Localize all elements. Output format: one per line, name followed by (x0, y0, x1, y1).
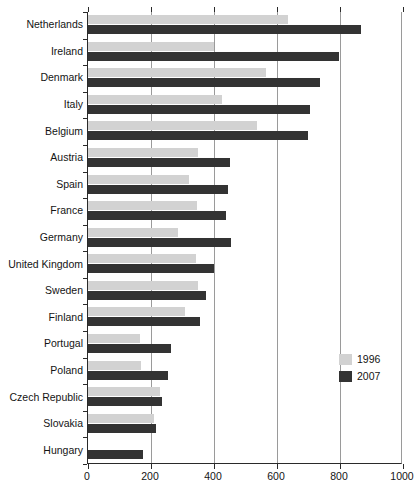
y-axis-category-label: Netherlands (0, 19, 83, 30)
bar-row (88, 12, 401, 39)
x-tick-800 (340, 464, 341, 469)
x-axis-tick-label: 0 (84, 470, 90, 482)
bar-row (88, 304, 401, 331)
y-axis-category-label: Ireland (0, 46, 83, 57)
bar-row (88, 437, 401, 464)
x-tick-200 (151, 7, 152, 12)
bar-1996 (88, 228, 178, 237)
bar-2007 (88, 25, 361, 34)
legend-label: 1996 (357, 352, 380, 366)
x-axis-tick-label: 800 (330, 470, 348, 482)
x-tick-400 (214, 464, 215, 469)
x-axis-labels: 02004006008001000 (0, 470, 415, 486)
legend-item: 2007 (339, 369, 399, 386)
bar-1996 (88, 15, 288, 24)
bar-2007 (88, 371, 168, 380)
bar-1996 (88, 361, 141, 370)
bar-2007 (88, 397, 162, 406)
bar-1996 (88, 387, 160, 396)
bar-chart: NetherlandsIrelandDenmarkItalyBelgiumAus… (0, 0, 415, 501)
y-axis-category-label: Denmark (0, 72, 83, 83)
legend-item: 1996 (339, 352, 399, 369)
bar-row (88, 145, 401, 172)
bar-rows (88, 12, 401, 463)
bar-row (88, 172, 401, 199)
bar-2007 (88, 317, 200, 326)
bar-row (88, 118, 401, 145)
y-axis-category-label: Hungary (0, 445, 83, 456)
bar-row (88, 92, 401, 119)
bar-1996 (88, 148, 198, 157)
bar-1996 (88, 42, 214, 51)
x-tick-600 (277, 464, 278, 469)
legend-swatch-2007 (339, 371, 352, 382)
bar-1996 (88, 334, 140, 343)
y-axis-category-label: Czech Republic (0, 392, 83, 403)
y-axis-category-label: Italy (0, 99, 83, 110)
y-axis-category-label: Slovakia (0, 418, 83, 429)
bar-row (88, 225, 401, 252)
y-axis-category-label: Portugal (0, 338, 83, 349)
bar-1996 (88, 281, 198, 290)
x-axis-tick-label: 600 (267, 470, 285, 482)
legend-swatch-1996 (339, 354, 352, 365)
bar-1996 (88, 121, 257, 130)
bar-1996 (88, 254, 196, 263)
bar-row (88, 251, 401, 278)
y-axis-labels: NetherlandsIrelandDenmarkItalyBelgiumAus… (0, 12, 83, 464)
x-axis-tick-label: 1000 (390, 470, 413, 482)
bar-2007 (88, 105, 310, 114)
bar-1996 (88, 201, 197, 210)
x-axis-tick-label: 200 (141, 470, 159, 482)
bar-2007 (88, 78, 320, 87)
bar-1996 (88, 307, 185, 316)
bar-row (88, 411, 401, 438)
cut-off-caption-fragment (0, 0, 415, 7)
x-tick-0 (88, 464, 89, 469)
bar-row (88, 384, 401, 411)
y-axis-category-label: United Kingdom (0, 259, 83, 270)
bar-1996 (88, 95, 222, 104)
bar-1996 (88, 175, 189, 184)
bar-2007 (88, 211, 226, 220)
y-axis-category-label: Sweden (0, 285, 83, 296)
chart-legend: 19962007 (339, 352, 399, 386)
x-tick-1000 (403, 464, 404, 469)
x-tick-0 (88, 7, 89, 12)
bar-1996 (88, 414, 154, 423)
y-axis-category-label: Belgium (0, 126, 83, 137)
x-tick-200 (151, 464, 152, 469)
bar-2007 (88, 185, 228, 194)
y-axis-category-label: Austria (0, 152, 83, 163)
bar-1996 (88, 68, 266, 77)
y-axis-category-label: Spain (0, 179, 83, 190)
bar-2007 (88, 238, 231, 247)
y-axis-category-label: Poland (0, 365, 83, 376)
bar-2007 (88, 264, 214, 273)
x-tick-400 (214, 7, 215, 12)
bar-2007 (88, 158, 230, 167)
x-tick-1000 (403, 7, 404, 12)
bar-2007 (88, 424, 156, 433)
bar-row (88, 198, 401, 225)
bar-2007 (88, 344, 171, 353)
x-tick-600 (277, 7, 278, 12)
bar-row (88, 65, 401, 92)
x-axis-tick-label: 400 (204, 470, 222, 482)
legend-label: 2007 (357, 369, 380, 383)
y-tick (83, 464, 87, 465)
bar-row (88, 278, 401, 305)
plot-area (87, 12, 402, 464)
bar-2007 (88, 52, 339, 61)
bar-2007 (88, 131, 308, 140)
bar-2007 (88, 450, 143, 459)
y-axis-category-label: France (0, 205, 83, 216)
bar-2007 (88, 291, 206, 300)
y-axis-category-label: Finland (0, 312, 83, 323)
bar-row (88, 39, 401, 66)
x-tick-800 (340, 7, 341, 12)
y-axis-category-label: Germany (0, 232, 83, 243)
